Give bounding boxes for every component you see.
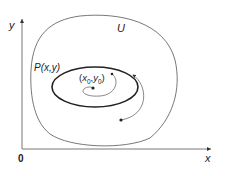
region-label: U	[117, 22, 125, 34]
x-axis-label: x	[204, 152, 211, 164]
inner-start-point	[111, 73, 114, 76]
outer-start-point	[119, 118, 122, 121]
phase-plane-diagram: y 0 x U P(x,y) (x0,y0)	[0, 0, 226, 176]
origin-label: 0	[18, 153, 24, 164]
y-axis-label: y	[8, 19, 16, 31]
equilibrium-point	[91, 86, 94, 89]
closed-orbit-label: P(x,y)	[34, 62, 60, 73]
equilibrium-label: (x0,y0)	[79, 72, 105, 85]
